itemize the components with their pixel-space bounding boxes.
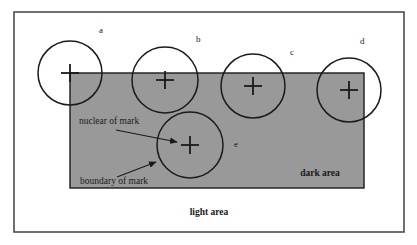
callout-label-nuclear-of-mark: nuclear of mark (79, 116, 139, 126)
dark-area-label: dark area (300, 168, 340, 178)
callout-label-boundary-of-mark: boundary of mark (80, 176, 148, 186)
light-area-label: light area (190, 207, 229, 217)
circle-label-a: a (99, 25, 103, 35)
circle-label-e: e (234, 139, 238, 149)
circle-label-d: d (360, 36, 365, 46)
circle-label-c: c (290, 47, 294, 57)
figure-container: abcde nuclear of mark boundary of mark d… (0, 0, 417, 245)
mark-geometry-diagram: abcde nuclear of mark boundary of mark d… (0, 0, 417, 245)
circle-label-b: b (196, 34, 201, 44)
